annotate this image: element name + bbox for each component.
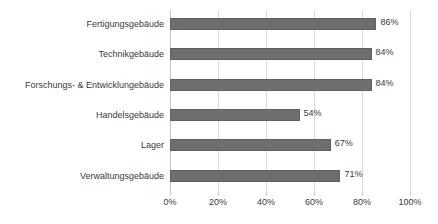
x-tick-label: 20% [209,196,227,209]
bar[interactable] [170,170,340,182]
category-label: Lager [0,139,164,152]
bar-row: 54% [170,101,410,130]
x-tick-label: 60% [305,196,323,209]
x-tick-label: 0% [163,196,176,209]
category-label: Forschungs- & Entwicklungebäude [0,79,164,92]
bar-row: 84% [170,71,410,100]
x-tick-label: 100% [398,196,421,209]
bar[interactable] [170,79,372,91]
plot-area: 86%84%84%54%67%71% [170,10,410,192]
bar-row: 86% [170,10,410,39]
category-label: Fertigungsgebäude [0,18,164,31]
category-label: Verwaltungsgebäude [0,170,164,183]
bar-chart: 86%84%84%54%67%71% FertigungsgebäudeTech… [0,0,438,224]
bar-value-label: 71% [344,168,362,181]
gridline-100 [410,10,411,192]
category-label: Handelsgebäude [0,109,164,122]
bar-row: 84% [170,40,410,69]
x-tick-label: 40% [257,196,275,209]
x-tick-label: 80% [353,196,371,209]
bar[interactable] [170,139,331,151]
bar[interactable] [170,48,372,60]
bar-value-label: 86% [380,16,398,29]
bar[interactable] [170,18,376,30]
bar[interactable] [170,109,300,121]
bar-row: 67% [170,131,410,160]
bar-value-label: 67% [335,137,353,150]
x-axis-labels: 0%20%40%60%80%100% [0,192,438,212]
bar-value-label: 84% [376,77,394,90]
bar-row: 71% [170,162,410,191]
bar-value-label: 54% [304,107,322,120]
category-label: Technikgebäude [0,48,164,61]
bar-value-label: 84% [376,46,394,59]
